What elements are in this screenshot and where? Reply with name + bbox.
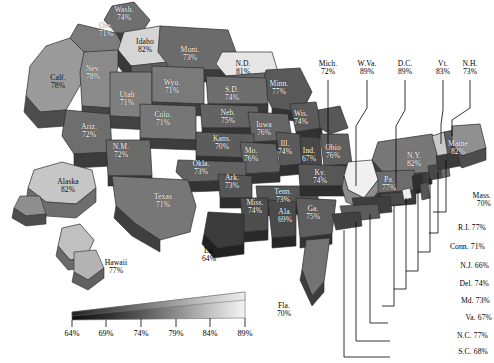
leader-line-del [394, 198, 406, 289]
state-prism-colo [140, 104, 196, 140]
state-prism-wyo [152, 66, 204, 104]
state-prism-calf [26, 38, 88, 112]
legend-tick-74: 74% [124, 329, 158, 338]
legend-tick-89: 89% [228, 329, 262, 338]
leader-line-va [370, 214, 388, 323]
leader-line-sc [344, 230, 390, 357]
state-prism-ill [276, 132, 302, 166]
state-prism-miss-side [244, 230, 268, 242]
leader-line-md [382, 206, 394, 306]
state-prism-nm [106, 140, 152, 176]
legend-tick-84: 84% [193, 329, 227, 338]
state-prism-sc [332, 212, 362, 230]
state-prism-wis [290, 102, 322, 132]
state-prism-ind [300, 136, 322, 168]
state-prism-texas [112, 176, 196, 240]
legend-wedge [72, 292, 245, 327]
legend-tick-64: 64% [55, 329, 89, 338]
state-prism-ky-side [300, 186, 346, 196]
state-prism-ariz-side [74, 152, 112, 168]
state-prism-ky [298, 164, 348, 186]
legend-tick-79: 79% [159, 329, 193, 338]
state-prism-de [420, 182, 430, 200]
map-prism-body [12, 2, 486, 306]
state-prism-dc [402, 188, 412, 200]
state-prism-ala [268, 200, 296, 238]
state-prism-ala-side [272, 236, 296, 248]
state-prism-sd [206, 76, 268, 104]
state-prism-ga [296, 198, 336, 238]
state-prism-ark [218, 174, 252, 198]
state-prism-mich [318, 106, 348, 134]
state-prism-ariz [62, 110, 112, 154]
legend-tick-69: 69% [89, 329, 123, 338]
state-prism-ohio [320, 134, 352, 166]
